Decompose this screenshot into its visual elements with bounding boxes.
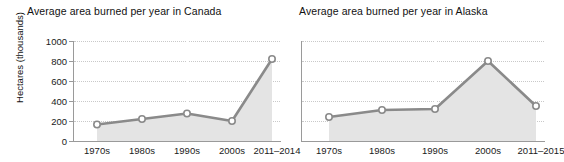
x-axis-line: [73, 141, 281, 142]
y-tick-0: [69, 141, 74, 142]
x-tick-label-2000s: 2000s: [475, 145, 501, 156]
y-tick-label-0: 0: [62, 136, 67, 147]
x-tick-label-1970s: 1970s: [316, 145, 342, 156]
data-point: [485, 58, 491, 64]
y-tick-label-200: 200: [51, 116, 67, 127]
x-axis-line: [301, 141, 545, 142]
plot-area-canada: 1000 800 600 400 200 0 1970s 1980s 1990s…: [74, 41, 280, 141]
y-axis-title: Hectares (thousands): [14, 3, 25, 113]
x-tick-label-1990s: 1990s: [422, 145, 448, 156]
chart-panel-canada: Average area burned per year in Canada H…: [0, 0, 288, 162]
x-tick-label-1990s: 1990s: [174, 145, 200, 156]
data-point: [184, 110, 190, 116]
series-canada: [74, 41, 280, 141]
y-tick-label-400: 400: [51, 96, 67, 107]
data-point: [432, 106, 438, 112]
chart-title-canada: Average area burned per year in Canada: [27, 5, 222, 17]
y-tick-label-1000: 1000: [46, 36, 67, 47]
chart-panel-alaska: Average area burned per year in Alaska 1…: [288, 0, 560, 162]
data-point: [379, 107, 385, 113]
y-tick-label-800: 800: [51, 56, 67, 67]
data-point: [94, 121, 100, 127]
series-alaska: [302, 41, 544, 141]
x-tick-label-1980s: 1980s: [129, 145, 155, 156]
data-point: [229, 118, 235, 124]
chart-title-alaska: Average area burned per year in Alaska: [299, 5, 488, 17]
y-tick-label-600: 600: [51, 76, 67, 87]
data-point: [533, 103, 539, 109]
x-tick-label-2011-2015: 2011–2015: [518, 145, 564, 156]
x-tick-label-1970s: 1970s: [84, 145, 110, 156]
x-tick-label-1980s: 1980s: [369, 145, 395, 156]
data-point: [326, 114, 332, 120]
data-point: [269, 56, 275, 62]
data-point: [139, 116, 145, 122]
x-tick-label-2000s: 2000s: [219, 145, 245, 156]
plot-area-alaska: 1970s 1980s 1990s 2000s 2011–2015: [302, 41, 544, 141]
